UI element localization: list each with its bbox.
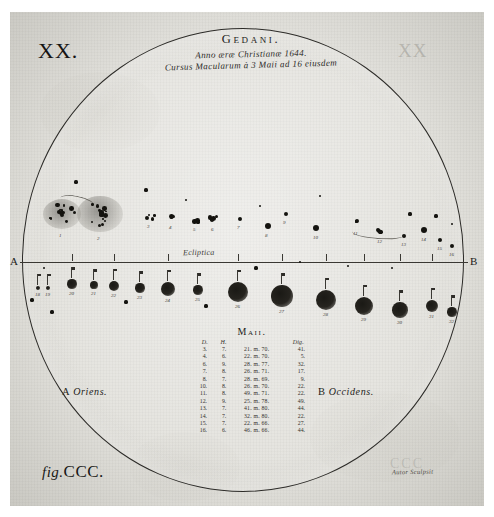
table-cell: 7. [217, 346, 226, 353]
plate-illustration: XX. XX Gedani. Anno æræ Christianæ 1644.… [0, 0, 494, 517]
orientation-west-letter: B [318, 386, 326, 397]
table-cell: 9. [287, 376, 305, 383]
sunspot-umbra [228, 282, 248, 302]
ecliptic-line [20, 262, 468, 263]
spot-number-label: 30 [397, 320, 402, 325]
sunspot-dot [74, 180, 77, 183]
sunspot-umbra [271, 285, 293, 307]
spot-number-label: 16 [449, 252, 454, 257]
table-cell: 27. [287, 420, 305, 427]
table-cell: 22. m. 70. [237, 353, 277, 360]
table-body: 3.7.21. m. 70.41.4.6.22. m. 70.5.6.9.28.… [196, 346, 308, 435]
table-cell: 12. [199, 398, 207, 405]
spot-marker-flag [363, 285, 364, 296]
orientation-east-word: Oriens. [73, 386, 107, 397]
plate-number: XX. [38, 38, 78, 64]
table-cell: 44. [287, 405, 305, 412]
spot-number-label: 29 [361, 317, 366, 322]
sunspot-umbra [151, 217, 155, 221]
spot-marker-flag [113, 269, 114, 280]
spot-marker-flag [281, 273, 282, 284]
spot-number-label: 18 [35, 292, 40, 297]
sunspot-umbra [193, 285, 202, 294]
table-cell: 6. [217, 353, 226, 360]
table-cell: 6. [199, 361, 207, 368]
table-cell: 41. m. 80. [237, 405, 277, 412]
ecliptic-tick [432, 254, 433, 261]
spot-number-label: 28 [323, 312, 328, 317]
spot-marker-flag [325, 278, 326, 289]
spot-marker-flag [37, 274, 38, 285]
spot-marker-flag [47, 274, 48, 285]
sunspot-umbra [170, 215, 173, 218]
table-cell: 26. m. 71. [237, 368, 277, 375]
spot-number-label: 31 [429, 314, 434, 319]
table-row: 14.7.32. m. 80.22. [196, 413, 308, 420]
endpoint-label-b: B [470, 255, 477, 267]
spot-number-label: 1 [59, 233, 62, 238]
spot-marker-flag [93, 269, 94, 280]
spot-number-label: 26 [235, 304, 240, 309]
ecliptic-tick [326, 254, 327, 261]
table-cell: 21. m. 70. [237, 346, 277, 353]
table-row: 6.9.28. m. 77.32. [196, 361, 308, 368]
table-header-minutes [236, 339, 276, 345]
orientation-label-east: A Oriens. [62, 386, 107, 397]
figure-caption: fig.CCC. [42, 462, 104, 482]
table-header-dig: Dig. [286, 339, 304, 345]
sunspot-umbra [265, 223, 271, 229]
sunspot-umbra [421, 227, 427, 233]
endpoint-label-a: A [10, 255, 18, 267]
table-row: 12.9.25. m. 78.49. [196, 398, 308, 405]
sunspot-dot [144, 188, 147, 191]
spot-marker-flag [139, 271, 140, 282]
table-cell: 5. [287, 353, 305, 360]
sunspot-umbra [67, 279, 76, 288]
sunspot-umbra [63, 204, 65, 206]
sunspot-umbra [90, 281, 98, 289]
observation-table: Maii. D. H. Dig. 3.7.21. m. 70.41.4.6.22… [196, 326, 308, 435]
table-cell: 49. m. 71. [237, 390, 277, 397]
table-header-day: D. [200, 339, 208, 345]
plate-number-ghost: XX [398, 40, 427, 62]
spot-number-label: 23 [137, 295, 142, 300]
table-cell: 28. m. 77. [237, 361, 277, 368]
table-cell: 15. [199, 420, 207, 427]
table-cell: 4. [199, 353, 207, 360]
table-cell: 46. m. 66. [237, 427, 277, 434]
table-row: 13.7.41. m. 80.44. [196, 405, 308, 412]
table-cell: 25. m. 78. [237, 398, 277, 405]
sunspot-umbra [135, 283, 144, 292]
spot-number-label: 21 [91, 291, 96, 296]
table-cell: 3. [199, 346, 207, 353]
spot-marker-flag [197, 273, 198, 284]
table-cell: 7. [217, 420, 226, 427]
ecliptic-label: Ecliptica [183, 248, 215, 257]
sunspot-umbra [50, 217, 53, 220]
orientation-east-letter: A [62, 386, 70, 397]
spot-number-label: 32 [449, 319, 454, 324]
sunspot-umbra [392, 302, 408, 318]
table-cell: 49. [287, 398, 305, 405]
spot-number-label: 20 [69, 291, 74, 296]
table-cell: 44. [287, 427, 305, 434]
spot-marker-flag [71, 267, 72, 278]
spot-number-label: 5 [193, 227, 196, 232]
table-cell: 26. m. 70. [237, 383, 277, 390]
table-cell: 22. m. 66. [237, 420, 277, 427]
sunspot-umbra [316, 290, 336, 310]
table-cell: 32. m. 80. [237, 413, 277, 420]
table-cell: 7. [217, 376, 226, 383]
table-cell: 17. [287, 368, 305, 375]
sunspot-umbra [61, 209, 63, 211]
sunspot-dot [30, 298, 33, 301]
spot-number-label: 12 [377, 239, 382, 244]
table-cell: 6. [217, 427, 226, 434]
ecliptic-tick [400, 254, 401, 261]
sunspot-umbra [55, 203, 59, 207]
sunspot-dot [124, 300, 127, 303]
table-header-hour: H. [218, 339, 227, 345]
table-row: 11.8.49. m. 71.22. [196, 390, 308, 397]
sunspot-umbra [161, 282, 175, 296]
spot-number-label: 2 [97, 236, 100, 241]
